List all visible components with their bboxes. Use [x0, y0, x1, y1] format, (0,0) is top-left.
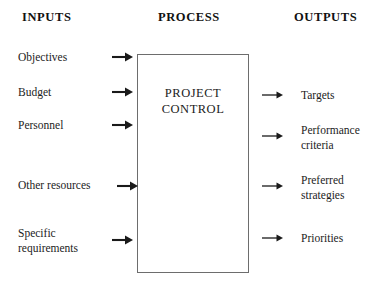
- input-label-budget: Budget: [18, 85, 51, 100]
- column-header-inputs: INPUTS: [22, 10, 71, 25]
- input-label-specific-requirements: Specific requirements: [18, 226, 78, 255]
- input-label-personnel: Personnel: [18, 118, 63, 133]
- right-arrow-thin-icon-priorities: [262, 232, 284, 244]
- process-box: PROJECT CONTROL: [137, 54, 249, 273]
- right-arrow-bold-icon-specific-requirements: [112, 234, 134, 246]
- process-box-label: PROJECT CONTROL: [138, 86, 248, 117]
- output-label-performance-criteria: Performance criteria: [301, 123, 360, 152]
- input-label-objectives: Objectives: [18, 50, 67, 65]
- input-label-other-resources: Other resources: [18, 178, 90, 193]
- right-arrow-bold-icon-other-resources: [117, 180, 139, 192]
- output-label-targets: Targets: [301, 88, 334, 103]
- right-arrow-thin-icon-targets: [262, 89, 284, 101]
- column-header-process: PROCESS: [158, 10, 220, 25]
- right-arrow-thin-icon-preferred-strategies: [262, 180, 284, 192]
- column-header-outputs: OUTPUTS: [294, 10, 357, 25]
- right-arrow-bold-icon-budget: [112, 86, 134, 98]
- output-label-preferred-strategies: Preferred strategies: [301, 173, 344, 202]
- right-arrow-thin-icon-performance-criteria: [262, 130, 284, 142]
- right-arrow-bold-icon-objectives: [112, 51, 134, 63]
- diagram-canvas: INPUTS PROCESS OUTPUTS PROJECT CONTROL O…: [0, 0, 386, 288]
- right-arrow-bold-icon-personnel: [112, 119, 134, 131]
- output-label-priorities: Priorities: [301, 231, 343, 246]
